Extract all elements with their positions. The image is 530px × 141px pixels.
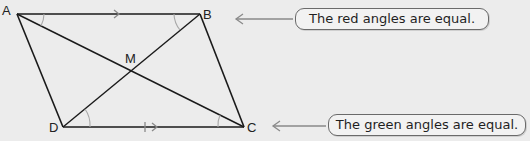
diagonals: [17, 14, 244, 127]
side-da: [17, 14, 63, 127]
side-bc: [200, 14, 244, 127]
angle-arc-bdc-icon: [85, 109, 90, 127]
vertex-label-d: D: [49, 120, 58, 135]
angle-arc-acd-icon: [218, 115, 220, 127]
vertex-label-b: B: [203, 7, 212, 22]
callout-green-angles: The green angles are equal.: [328, 114, 526, 136]
parallel-marks: [114, 10, 157, 132]
diagram-stage: A B C D M The red angles are equal. The …: [0, 0, 530, 141]
vertex-label-m: M: [125, 51, 136, 66]
vertex-label-c: C: [247, 120, 256, 135]
callout-red-angles: The red angles are equal.: [295, 8, 489, 30]
callout-arrows: [236, 14, 326, 131]
diagonal-bd: [63, 14, 200, 127]
angle-arc-bac-icon: [41, 14, 44, 26]
angle-arc-abd-icon: [174, 14, 180, 30]
vertex-label-a: A: [2, 3, 11, 18]
